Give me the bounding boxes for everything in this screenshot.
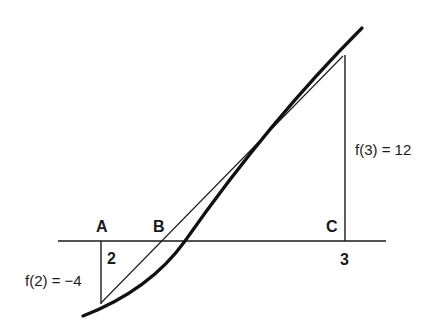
tick-label-2: 2 [107,250,116,267]
annotation-f2: f(2) = −4 [25,272,82,289]
point-label-a: A [96,218,108,235]
function-curve [83,28,362,316]
point-label-c: C [326,218,338,235]
annotation-f3: f(3) = 12 [355,141,411,158]
tick-label-3: 3 [340,251,349,268]
point-label-b: B [153,218,165,235]
interpolation-diagram: A B C 2 3 f(2) = −4 f(3) = 12 [0,0,444,336]
chord-line [101,56,343,303]
